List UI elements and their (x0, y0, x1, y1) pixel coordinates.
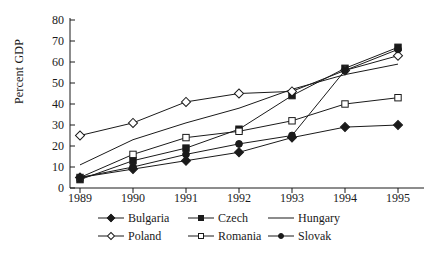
data-point (75, 131, 84, 140)
legend-label: Bulgaria (128, 211, 169, 226)
legend-item-bulgaria[interactable]: Bulgaria (98, 211, 188, 226)
data-point (77, 174, 84, 181)
data-point (395, 95, 401, 101)
filled-diamond-marker-icon (98, 212, 124, 224)
y-axis-tick-labels: 80 70 60 50 40 30 20 10 0 (34, 0, 64, 255)
legend-label: Slovak (298, 229, 331, 244)
data-point (340, 123, 349, 132)
data-point (183, 145, 189, 151)
data-point (289, 118, 295, 124)
x-tick-label: 1995 (386, 192, 410, 204)
legend-row: Bulgaria Czech Hungary (98, 209, 358, 227)
data-point (183, 151, 190, 158)
axis-lines (70, 18, 424, 188)
legend: Bulgaria Czech Hungary Poland Romania (98, 209, 358, 245)
data-point (234, 148, 243, 157)
y-tick-label: 40 (52, 98, 64, 110)
filled-circle-marker-icon (268, 230, 294, 242)
data-point (395, 46, 402, 53)
data-point (128, 118, 137, 127)
y-tick-label: 60 (52, 56, 64, 68)
y-tick-label: 10 (52, 161, 64, 173)
series-line (80, 49, 398, 177)
y-axis-label: Percent GDP (12, 27, 27, 117)
data-point (342, 67, 349, 74)
y-tick-label: 30 (52, 119, 64, 131)
data-series-layer (75, 44, 402, 183)
y-tick-label: 50 (52, 77, 64, 89)
series-romania (77, 95, 401, 181)
data-point (236, 141, 243, 148)
x-tick-label: 1992 (227, 192, 251, 204)
legend-row: Poland Romania Slovak (98, 227, 358, 245)
y-tick-label: 70 (52, 35, 64, 47)
data-point (130, 158, 136, 164)
x-tick-label: 1994 (333, 192, 357, 204)
x-tick-label: 1991 (174, 192, 198, 204)
data-point (236, 128, 242, 134)
data-point (342, 101, 348, 107)
filled-square-marker-icon (188, 212, 214, 224)
legend-item-slovak[interactable]: Slovak (268, 229, 331, 244)
data-point (130, 151, 136, 157)
series-czech (77, 44, 401, 183)
y-axis-ticks (70, 20, 75, 188)
data-point (393, 120, 402, 129)
plain-line-marker-icon (268, 212, 294, 224)
data-point (234, 89, 243, 98)
legend-item-czech[interactable]: Czech (188, 211, 268, 226)
x-tick-label: 1989 (68, 192, 92, 204)
series-line (80, 47, 398, 179)
series-line (80, 98, 398, 178)
legend-label: Romania (218, 229, 261, 244)
data-point (130, 164, 137, 171)
legend-label: Poland (128, 229, 161, 244)
y-tick-label: 20 (52, 140, 64, 152)
legend-label: Hungary (298, 211, 340, 226)
legend-label: Czech (218, 211, 248, 226)
y-tick-label: 80 (52, 14, 64, 26)
data-point (181, 97, 190, 106)
legend-item-hungary[interactable]: Hungary (268, 211, 340, 226)
open-square-marker-icon (188, 230, 214, 242)
data-point (183, 134, 189, 140)
data-point (289, 132, 296, 139)
x-tick-label: 1993 (280, 192, 304, 204)
y-tick-label: 0 (58, 182, 64, 194)
line-chart: Percent GDP 80 70 60 50 40 30 20 10 0 19… (0, 0, 429, 255)
legend-item-poland[interactable]: Poland (98, 229, 188, 244)
legend-item-romania[interactable]: Romania (188, 229, 268, 244)
x-tick-label: 1990 (121, 192, 145, 204)
series-slovak (77, 46, 402, 181)
open-diamond-marker-icon (98, 230, 124, 242)
